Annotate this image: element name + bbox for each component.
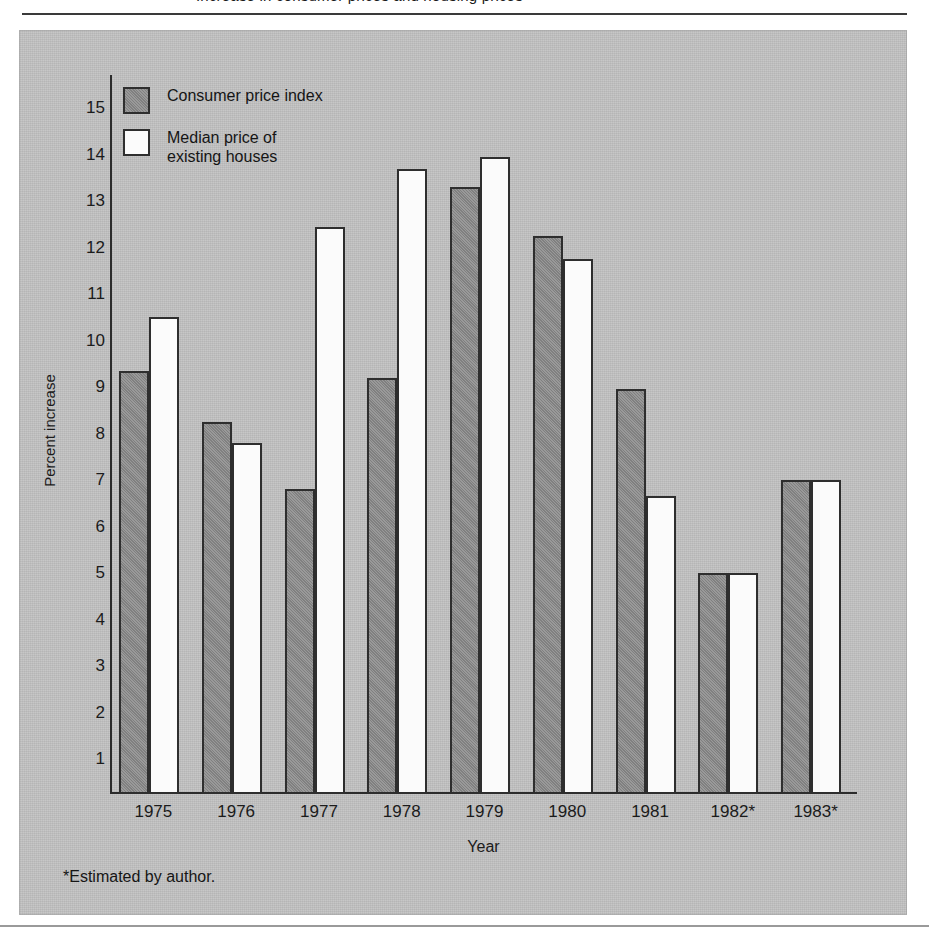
bar-group — [691, 75, 774, 794]
bar-median — [149, 317, 179, 794]
bar-group — [526, 75, 609, 794]
clipped-title-text: Increase in consumer prices and housing … — [0, 0, 929, 4]
top-rule — [22, 13, 907, 15]
legend-label: Median price of existing houses — [167, 128, 277, 166]
bar-median — [728, 573, 758, 794]
bar-group — [360, 75, 443, 794]
bar-cpi — [450, 187, 480, 794]
x-axis-title: Year — [110, 838, 857, 856]
bar-cpi — [616, 389, 646, 794]
y-axis-tick-label: 7 — [71, 471, 105, 488]
bar-cpi — [698, 573, 728, 794]
y-axis-tick-label: 9 — [71, 378, 105, 395]
legend-swatch-median — [123, 129, 150, 156]
y-axis-tick-label: 6 — [71, 518, 105, 535]
legend-entry: Median price of existing houses — [123, 128, 453, 166]
y-axis-tick-label: 3 — [71, 657, 105, 674]
bar-median — [563, 259, 593, 794]
y-axis-tick-label: 8 — [71, 425, 105, 442]
bar-median — [315, 227, 345, 794]
bar-cpi — [202, 422, 232, 794]
bar-group — [112, 75, 195, 794]
x-axis-tick-label: 1983* — [761, 802, 871, 822]
figure-page: Increase in consumer prices and housing … — [0, 0, 929, 940]
bottom-rule — [0, 925, 929, 927]
y-axis-tick-label: 15 — [71, 99, 105, 116]
bar-cpi — [533, 236, 563, 794]
y-axis-tick-label: 12 — [71, 239, 105, 256]
y-axis-tick-label: 10 — [71, 332, 105, 349]
bar-cpi — [119, 371, 149, 794]
y-axis-tick-label: 14 — [71, 146, 105, 163]
legend-entry: Consumer price index — [123, 86, 453, 114]
bar-median — [232, 443, 262, 794]
legend-swatch-cpi — [123, 87, 150, 114]
y-axis-tick-label: 11 — [71, 285, 105, 302]
y-axis-tick-label: 1 — [71, 750, 105, 767]
bar-median — [480, 157, 510, 794]
y-axis-tick-label: 13 — [71, 192, 105, 209]
bar-group — [774, 75, 857, 794]
plot-area: 151413121110987654321 Percent increase 1… — [19, 30, 907, 915]
bar-cpi — [285, 489, 315, 794]
clipped-title: Increase in consumer prices and housing … — [0, 0, 929, 5]
bar-group — [278, 75, 361, 794]
y-axis-tick-label: 4 — [71, 611, 105, 628]
y-axis-title: Percent increase — [41, 361, 58, 501]
chart-legend: Consumer price indexMedian price of exis… — [123, 86, 453, 180]
bar-groups — [112, 75, 857, 794]
footnote: *Estimated by author. — [63, 868, 215, 886]
chart-panel: 151413121110987654321 Percent increase 1… — [19, 30, 907, 915]
bar-cpi — [367, 378, 397, 794]
y-axis-tick-label: 5 — [71, 564, 105, 581]
bar-group — [443, 75, 526, 794]
bar-median — [646, 496, 676, 794]
bar-median — [811, 480, 841, 794]
bar-median — [397, 169, 427, 794]
bar-cpi — [781, 480, 811, 794]
y-axis-tick-label: 2 — [71, 704, 105, 721]
legend-label: Consumer price index — [167, 86, 323, 105]
bar-group — [195, 75, 278, 794]
y-axis-ticks: 151413121110987654321 — [63, 30, 105, 915]
bar-group — [609, 75, 692, 794]
